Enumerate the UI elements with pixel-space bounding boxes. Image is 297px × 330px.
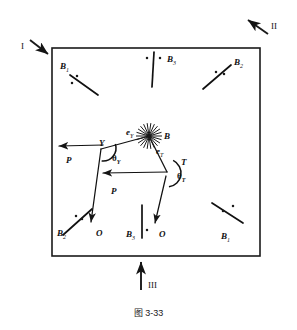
label-text: P (66, 155, 72, 165)
theta-subscript: T (182, 177, 186, 183)
trace-B1-bottom-right-dot (222, 210, 225, 213)
theta-subscript: Y (117, 159, 121, 165)
trace-B3-bottom-center-label: B3 (126, 230, 135, 241)
trace-B2-bottom-left-label: B2 (57, 229, 66, 240)
starburst-group (136, 123, 162, 149)
trace-label-subscript: 3 (132, 235, 135, 241)
trace-B1-top-left-dot (71, 82, 74, 85)
label-o_left: O (96, 229, 103, 238)
trace-B3-top-center-dot (159, 57, 162, 60)
trace-B2-bottom-left-dot (75, 215, 78, 218)
vector-P-upper (59, 145, 103, 146)
label-y: Y (99, 139, 105, 148)
label-b: B (164, 132, 170, 141)
trace-B1-top-left-label: B1 (60, 62, 69, 73)
trace-label-subscript: 2 (63, 234, 66, 240)
marker-II-arrow (248, 20, 268, 34)
label-p_upper: P (66, 156, 72, 165)
marker-I-label: I (21, 42, 24, 51)
trace-B3-top-center-line (152, 52, 154, 87)
label-subscript: T (160, 152, 163, 158)
trace-B2-top-right-dot (223, 73, 226, 76)
marker-II-label: II (271, 22, 277, 31)
vector-group (59, 136, 167, 223)
label-text: B (164, 131, 170, 141)
figure-canvas: B1B3B2B2B3B1IIIIIIBeYeTYTPPOOθYθT 图 3-33 (0, 0, 297, 330)
trace-B2-top-right-dot (215, 71, 218, 74)
vector-O-right (155, 176, 166, 223)
trace-B1-top-left-dot (76, 75, 79, 78)
trace-label-subscript: 1 (227, 237, 230, 243)
label-text: O (159, 229, 166, 239)
marker-III-label: III (148, 281, 157, 290)
starburst-node-B-center (147, 134, 151, 138)
trace-B2-bottom-left-dot (81, 218, 84, 221)
marker-I-arrow (30, 40, 48, 54)
label-text: P (111, 186, 117, 196)
label-theta-t: θT (177, 172, 185, 183)
figure-caption: 图 3-33 (0, 306, 297, 319)
trace-B2-bottom-left-line (63, 209, 92, 235)
trace-label-subscript: 3 (173, 60, 176, 66)
label-ey: eY (126, 128, 133, 139)
trace-label-subscript: 2 (240, 63, 243, 69)
angle-arc-group (102, 144, 181, 187)
vector-P-lower (103, 172, 167, 173)
label-t: T (181, 158, 187, 167)
trace-B3-top-center-dot (146, 57, 149, 60)
trace-B2-top-right-label: B2 (234, 58, 243, 69)
label-o_right: O (159, 230, 166, 239)
label-text: O (96, 228, 103, 238)
label-text: Y (99, 138, 105, 148)
trace-B1-top-left-line (70, 75, 98, 95)
trace-label-subscript: 1 (66, 67, 69, 73)
label-et: eT (156, 147, 163, 158)
label-theta-y: θY (112, 154, 120, 165)
label-p_lower: P (111, 187, 117, 196)
trace-B1-bottom-right-line (212, 203, 243, 223)
trace-B1-bottom-right-dot (232, 205, 235, 208)
trace-B3-bottom-center-dot (146, 229, 149, 232)
trace-B2-top-right-line (203, 65, 231, 89)
label-text: T (181, 157, 187, 167)
vector-O-left (91, 149, 101, 222)
label-subscript: Y (130, 133, 133, 139)
trace-B3-top-center-label: B3 (167, 55, 176, 66)
trace-B1-bottom-right-label: B1 (221, 232, 230, 243)
